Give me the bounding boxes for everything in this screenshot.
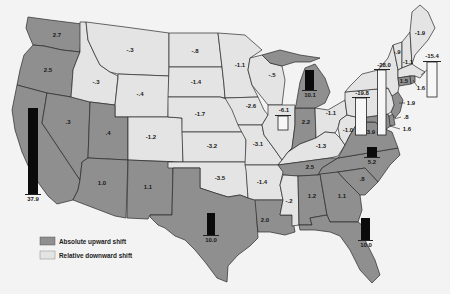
label-sc: .8 — [359, 176, 365, 182]
label-co: -1.2 — [146, 134, 157, 140]
us-shift-map: 2.7 2.5 .3 -.3 -.3 -.4 .4 -1.2 1.0 1.1 -… — [0, 0, 450, 294]
label-ma: -15.4 — [425, 53, 439, 59]
label-nd: -.8 — [191, 48, 199, 54]
state-ri — [410, 76, 415, 84]
label-vt: -.9 — [393, 49, 401, 55]
label-ct: 1.5 — [400, 78, 409, 84]
label-ms: -.2 — [285, 198, 293, 204]
label-in: 2.2 — [302, 119, 311, 125]
legend-swatch-downward — [40, 251, 55, 259]
label-nm: 1.1 — [144, 184, 153, 190]
label-fl: 10.0 — [360, 242, 372, 248]
label-mn: -1.1 — [235, 62, 246, 68]
label-wy: -.4 — [136, 91, 144, 97]
label-va: 3.9 — [367, 129, 376, 135]
label-ks: -3.2 — [207, 143, 218, 149]
label-mt: -.3 — [126, 47, 134, 53]
label-tx: 10.0 — [205, 237, 217, 243]
label-il: -6.1 — [279, 107, 290, 113]
label-ne: -1.7 — [195, 111, 206, 117]
state-pa — [345, 88, 394, 118]
label-or: 2.5 — [44, 67, 53, 73]
label-ok: -3.5 — [215, 175, 226, 181]
label-wv: -1.0 — [343, 127, 354, 133]
label-id: -.3 — [92, 79, 100, 85]
label-nc: 5.2 — [368, 159, 377, 165]
label-me: -1.9 — [415, 30, 426, 36]
legend-item-downward: Relative downward shift — [40, 251, 133, 259]
label-pa: -19.8 — [355, 90, 369, 96]
legend-label-upward: Absolute upward shift — [59, 238, 127, 246]
legend-item-upward: Absolute upward shift — [40, 237, 127, 246]
label-ny: -28.0 — [377, 62, 391, 68]
label-mo: -3.1 — [253, 141, 264, 147]
label-nj: 1.9 — [407, 100, 416, 106]
state-az — [73, 158, 128, 218]
legend: Absolute upward shift Relative downward … — [40, 237, 133, 259]
legend-label-downward: Relative downward shift — [59, 252, 133, 259]
label-ga: 1.1 — [338, 193, 347, 199]
label-ut: .4 — [105, 130, 111, 136]
label-nh: -1.1 — [403, 59, 414, 65]
label-al: 1.2 — [308, 193, 317, 199]
state-ny — [345, 45, 399, 96]
label-mi: 10.1 — [304, 92, 316, 98]
label-ca: 37.9 — [27, 196, 39, 202]
label-sd: -1.4 — [191, 79, 202, 85]
label-md: 1.6 — [403, 126, 412, 132]
leader-line-md — [390, 126, 400, 129]
legend-swatch-upward — [40, 237, 55, 245]
label-wa: 2.7 — [53, 32, 62, 38]
label-ky: -1.3 — [316, 143, 327, 149]
label-az: 1.0 — [98, 180, 107, 186]
label-tn: 2.5 — [306, 164, 315, 170]
label-oh: -1.1 — [326, 110, 337, 116]
label-ri: 1.6 — [417, 85, 426, 91]
label-de: .8 — [403, 114, 409, 120]
label-ia: -2.6 — [246, 103, 257, 109]
label-nv: .3 — [65, 119, 71, 125]
label-ar: -1.4 — [257, 179, 268, 185]
label-wi: -.5 — [268, 72, 276, 78]
label-la: 2.0 — [261, 217, 270, 223]
